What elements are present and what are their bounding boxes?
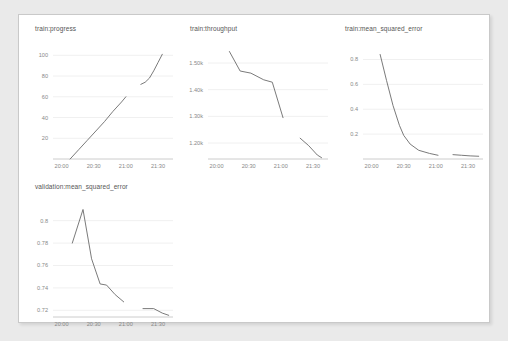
y-axis-tick-label: 1.20k (182, 140, 203, 146)
chart-title: validation:mean_squared_error (35, 183, 128, 190)
chart-plot-area: 2040608010020:0020:3021:0021:30 (27, 39, 179, 175)
y-axis-tick-label: 60 (27, 94, 48, 100)
chart-title: train:mean_squared_error (345, 25, 423, 32)
y-axis-tick-label: 0.78 (27, 240, 48, 246)
x-axis-tick-label: 20:30 (242, 163, 256, 169)
y-axis-tick-label: 0.2 (337, 131, 358, 137)
y-axis-tick-label: 0.8 (27, 218, 48, 224)
y-axis-tick-label: 80 (27, 73, 48, 79)
x-axis-tick-label: 21:30 (461, 163, 475, 169)
y-axis-tick-label: 20 (27, 135, 48, 141)
chart-svg (337, 39, 489, 175)
chart-panel-train-mean-squared-error: train:mean_squared_error 0.20.40.60.820:… (337, 25, 489, 175)
x-axis-tick-label: 20:30 (87, 163, 101, 169)
x-axis-tick-label: 21:00 (429, 163, 443, 169)
chart-panel-train-progress: train:progress 2040608010020:0020:3021:0… (27, 25, 179, 175)
y-axis-tick-label: 1.30k (182, 113, 203, 119)
chart-svg (27, 39, 179, 175)
x-axis-tick-label: 21:00 (119, 321, 133, 327)
x-axis-tick-label: 20:00 (55, 163, 69, 169)
chart-plot-area: 0.720.740.760.780.820:0020:3021:0021:30 (27, 197, 179, 333)
metrics-card: train:progress 2040608010020:0020:3021:0… (18, 14, 490, 323)
page-root: train:progress 2040608010020:0020:3021:0… (0, 0, 508, 341)
chart-title: train:progress (35, 25, 76, 32)
chart-svg (27, 197, 179, 333)
x-axis-tick-label: 21:30 (151, 321, 165, 327)
series-line (300, 138, 321, 157)
x-axis-tick-label: 20:30 (87, 321, 101, 327)
y-axis-tick-label: 0.6 (337, 81, 358, 87)
x-axis-tick-label: 21:00 (274, 163, 288, 169)
x-axis-tick-label: 21:30 (306, 163, 320, 169)
y-axis-tick-label: 0.4 (337, 106, 358, 112)
chart-svg (182, 39, 334, 175)
chart-panel-validation-mean-squared-error: validation:mean_squared_error 0.720.740.… (27, 183, 179, 333)
y-axis-tick-label: 40 (27, 115, 48, 121)
series-line (380, 54, 438, 155)
series-line (229, 52, 283, 118)
y-axis-tick-label: 0.8 (337, 56, 358, 62)
x-axis-tick-label: 20:00 (55, 321, 69, 327)
chart-panel-train-throughput: train:throughput 1.20k1.30k1.40k1.50k20:… (182, 25, 334, 175)
y-axis-tick-label: 100 (27, 52, 48, 58)
y-axis-tick-label: 1.50k (182, 60, 203, 66)
x-axis-tick-label: 20:00 (210, 163, 224, 169)
x-axis-tick-label: 21:00 (119, 163, 133, 169)
y-axis-tick-label: 0.76 (27, 262, 48, 268)
y-axis-tick-label: 1.40k (182, 87, 203, 93)
series-line (141, 54, 162, 84)
chart-plot-area: 0.20.40.60.820:0020:3021:0021:30 (337, 39, 489, 175)
chart-title: train:throughput (190, 25, 237, 32)
chart-plot-area: 1.20k1.30k1.40k1.50k20:0020:3021:0021:30 (182, 39, 334, 175)
x-axis-tick-label: 20:00 (365, 163, 379, 169)
series-line (453, 155, 479, 157)
series-line (70, 97, 126, 159)
x-axis-tick-label: 21:30 (151, 163, 165, 169)
y-axis-tick-label: 0.74 (27, 285, 48, 291)
series-line (143, 309, 169, 316)
y-axis-tick-label: 0.72 (27, 307, 48, 313)
x-axis-tick-label: 20:30 (397, 163, 411, 169)
